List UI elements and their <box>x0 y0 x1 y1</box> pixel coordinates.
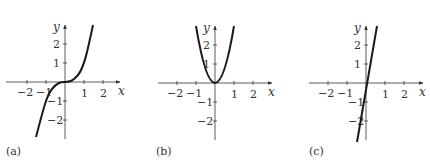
tick-label: 1 <box>53 57 60 70</box>
tick-label: −1 <box>47 95 63 108</box>
tick-label: 1 <box>354 58 361 71</box>
tick-label: 2 <box>100 87 107 100</box>
y-axis-label: y <box>353 21 361 35</box>
tick-label: 2 <box>354 39 361 52</box>
tick-label: 1 <box>81 87 88 100</box>
tick-label: −1 <box>348 96 364 109</box>
panel-b: −2 −1 1 2 2 1 −1 −2 x y (b) <box>156 21 275 158</box>
tick-label: −2 <box>197 115 213 128</box>
panel-label: (c) <box>309 145 324 158</box>
tick-label: 1 <box>382 88 389 101</box>
x-axis-label: x <box>268 85 275 99</box>
y-axis-label: y <box>202 21 210 35</box>
tick-label: −2 <box>167 87 183 100</box>
tick-label: 2 <box>53 38 60 51</box>
tick-label: 2 <box>250 88 257 101</box>
tick-label: 1 <box>231 88 238 101</box>
figure: −2 −1 1 2 2 1 −1 −2 x y (a) −2 −1 1 2 2 … <box>0 0 430 163</box>
panel-label: (b) <box>156 145 172 158</box>
panel-label: (a) <box>6 145 21 158</box>
tick-label: −1 <box>197 96 213 109</box>
tick-label: 2 <box>203 39 210 52</box>
panel-a: −2 −1 1 2 2 1 −1 −2 x y (a) <box>6 20 125 158</box>
x-axis-label: x <box>419 85 426 99</box>
x-axis-label: x <box>118 84 125 98</box>
tick-label: 2 <box>401 88 408 101</box>
panel-c: −2 −1 1 2 2 1 −1 −2 x y (c) <box>309 21 426 158</box>
tick-label: −2 <box>17 86 33 99</box>
tick-label: −2 <box>47 114 63 127</box>
y-axis-label: y <box>52 20 60 34</box>
tick-label: −2 <box>318 87 334 100</box>
